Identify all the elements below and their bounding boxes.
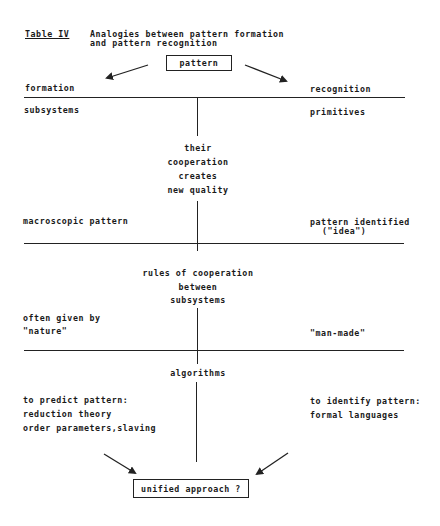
center-line-4 (196, 382, 197, 462)
center-text-subsystems: subsystems (128, 295, 268, 305)
center-text-their: their (148, 143, 248, 153)
macroscopic-pattern-label: macroscopic pattern (23, 216, 128, 226)
arrow-from-recognition (257, 453, 288, 474)
center-text-algorithms: algorithms (148, 368, 248, 378)
column-formation: formation (25, 83, 75, 93)
center-text-rules: rules of cooperation (128, 268, 268, 278)
nature-label: "nature" (23, 326, 67, 336)
divider-1 (24, 97, 405, 98)
pattern-box-label: pattern (167, 58, 231, 68)
arrow-to-formation (107, 65, 148, 78)
often-given-by-label: often given by (23, 313, 101, 323)
left-text-order-params: order parameters,slaving (23, 423, 156, 433)
pattern-box: pattern (166, 55, 232, 71)
center-text-new-quality: new quality (148, 185, 248, 195)
right-text-identify: to identify pattern: (310, 396, 421, 406)
center-line-2 (197, 201, 198, 251)
right-text-formal-languages: formal languages (310, 410, 399, 420)
center-text-between: between (128, 282, 268, 292)
man-made-label: "man-made" (310, 328, 365, 338)
idea-label: ("idea") (322, 226, 366, 236)
table-caption-line2: and pattern recognition (90, 38, 218, 48)
arrow-from-formation (104, 454, 135, 473)
center-line-3 (197, 308, 198, 364)
center-text-creates: creates (148, 171, 248, 181)
arrow-to-recognition (245, 65, 286, 81)
divider-2 (24, 243, 404, 244)
table-label: Table IV (25, 29, 69, 39)
arrows (0, 0, 440, 526)
subsystems-label: subsystems (24, 105, 79, 115)
primitives-label: primitives (310, 107, 365, 117)
left-text-predict: to predict pattern: (23, 395, 128, 405)
divider-3 (24, 350, 404, 351)
center-line-1 (197, 97, 198, 136)
column-recognition: recognition (310, 84, 371, 94)
left-text-reduction: reduction theory (23, 409, 112, 419)
unified-approach-box: unified approach ? (133, 479, 249, 498)
center-text-cooperation: cooperation (148, 157, 248, 167)
unified-approach-label: unified approach ? (134, 484, 248, 494)
